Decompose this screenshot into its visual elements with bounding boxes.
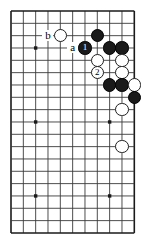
point-label-a: a <box>67 42 78 53</box>
stone-move-number: 1 <box>83 43 88 52</box>
stone-white[interactable] <box>115 54 128 67</box>
star-point <box>34 194 37 197</box>
stone-move-number: 2 <box>95 68 100 77</box>
stone-black[interactable] <box>103 78 116 91</box>
star-point <box>34 120 37 123</box>
stone-black[interactable] <box>115 41 128 54</box>
star-point <box>34 46 37 49</box>
stone-black[interactable] <box>128 91 141 104</box>
stone-white[interactable] <box>115 103 128 116</box>
point-label-b: b <box>42 30 53 41</box>
go-board-figure: 12 ba <box>0 0 149 242</box>
stone-white[interactable] <box>128 78 141 91</box>
move-stone-black[interactable]: 1 <box>78 41 91 54</box>
star-point <box>108 194 111 197</box>
stone-white[interactable] <box>91 54 104 67</box>
star-point <box>108 120 111 123</box>
go-board-grid[interactable] <box>0 0 149 242</box>
stone-white[interactable] <box>115 66 128 79</box>
stone-black[interactable] <box>103 41 116 54</box>
stone-white[interactable] <box>115 140 128 153</box>
stone-black[interactable] <box>115 78 128 91</box>
